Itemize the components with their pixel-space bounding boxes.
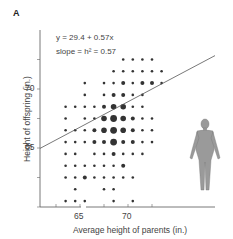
data-point — [103, 82, 106, 85]
data-point — [141, 70, 144, 73]
data-point — [112, 176, 115, 179]
data-point — [112, 93, 116, 97]
data-point — [132, 94, 135, 97]
data-point — [64, 105, 67, 108]
data-point — [131, 128, 135, 132]
y-tick-label: 70 — [25, 83, 34, 93]
data-point — [93, 105, 96, 108]
data-point — [64, 164, 67, 167]
data-point — [122, 58, 125, 61]
data-point — [103, 94, 106, 97]
data-point — [84, 164, 87, 167]
data-point — [141, 105, 144, 108]
data-point — [74, 176, 77, 179]
data-point — [132, 153, 135, 156]
data-point — [131, 140, 135, 144]
axis-ticks — [37, 60, 152, 208]
data-point — [121, 164, 125, 168]
data-point — [101, 116, 107, 122]
data-point — [110, 127, 117, 134]
data-point — [141, 153, 144, 156]
data-point — [84, 94, 87, 97]
data-point — [151, 129, 154, 132]
y-tick-label: 65 — [25, 142, 34, 152]
data-point — [84, 82, 87, 85]
data-point — [151, 117, 154, 120]
data-point — [83, 176, 87, 180]
data-point — [141, 58, 144, 61]
data-point — [64, 141, 67, 144]
data-point — [102, 105, 106, 109]
data-point — [132, 70, 135, 73]
data-point — [112, 200, 115, 203]
data-point — [74, 141, 77, 144]
data-point — [112, 82, 115, 85]
regression-line — [40, 56, 215, 149]
data-point — [112, 164, 115, 167]
data-point — [141, 117, 144, 120]
data-point — [84, 129, 87, 132]
data-point — [132, 58, 135, 61]
data-point — [92, 140, 96, 144]
data-point — [151, 58, 154, 61]
data-point — [84, 117, 87, 120]
data-point — [120, 116, 126, 122]
data-point — [141, 141, 144, 144]
data-point — [112, 152, 116, 156]
data-point — [93, 176, 96, 179]
data-point — [110, 139, 117, 146]
data-point — [74, 200, 77, 203]
data-point — [103, 188, 106, 191]
data-point — [93, 153, 96, 156]
data-point — [110, 115, 117, 122]
data-point — [151, 70, 154, 73]
data-point — [132, 105, 135, 108]
data-point — [121, 81, 125, 85]
data-point — [120, 104, 126, 110]
data-point — [150, 81, 154, 85]
data-point — [122, 70, 125, 73]
data-point — [74, 153, 77, 156]
data-point — [120, 128, 126, 134]
data-point — [132, 82, 135, 85]
data-point — [74, 164, 77, 167]
data-point — [103, 176, 106, 179]
data-point — [132, 200, 135, 203]
data-point — [151, 141, 154, 144]
data-point — [103, 164, 106, 167]
data-point — [160, 70, 163, 73]
data-point — [141, 129, 144, 132]
data-point — [121, 93, 125, 97]
data-point — [121, 140, 125, 144]
data-point — [64, 129, 67, 132]
data-point — [64, 200, 67, 203]
data-point — [140, 81, 144, 85]
data-point — [64, 176, 67, 179]
x-tick-label: 70 — [122, 211, 131, 221]
data-point — [92, 128, 96, 132]
data-point — [93, 164, 96, 167]
data-point — [112, 70, 115, 73]
data-point — [64, 117, 67, 120]
data-point — [84, 141, 87, 144]
data-point — [112, 188, 115, 191]
data-point — [74, 188, 77, 191]
data-point — [122, 153, 125, 156]
scatter-plot — [0, 0, 233, 239]
data-point — [102, 140, 106, 144]
human-figure-icon — [190, 119, 220, 190]
data-point — [122, 176, 125, 179]
data-point — [84, 200, 87, 203]
x-tick-label: 65 — [74, 211, 83, 221]
data-point — [103, 153, 106, 156]
data-point — [101, 128, 107, 134]
data-point — [132, 176, 135, 179]
data-points — [64, 58, 163, 202]
data-point — [84, 105, 87, 108]
data-point — [64, 153, 67, 156]
data-point — [131, 117, 135, 121]
data-point — [74, 105, 77, 108]
